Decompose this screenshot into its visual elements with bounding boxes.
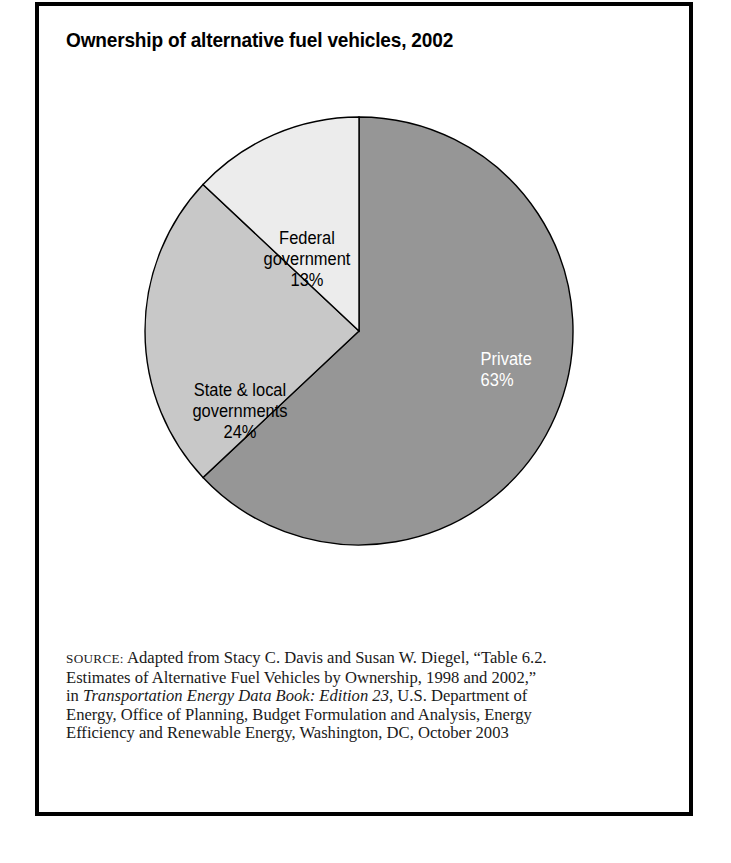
source-line-3-suffix: , U.S. Department of <box>389 686 527 705</box>
slice-label-line1: Federal <box>232 228 382 249</box>
source-line-1: SOURCE: Adapted from Stacy C. Davis and … <box>66 649 666 669</box>
pie-chart-graphic <box>139 111 579 551</box>
slice-label-line1: Private <box>481 349 594 370</box>
source-line-2: Estimates of Alternative Fuel Vehicles b… <box>66 669 666 688</box>
source-line-3: in Transportation Energy Data Book: Edit… <box>66 687 666 706</box>
figure-frame: Ownership of alternative fuel vehicles, … <box>35 2 693 816</box>
slice-label-value: 63% <box>481 370 594 391</box>
slice-label-line2: government <box>232 249 382 270</box>
source-line-1-text: Adapted from Stacy C. Davis and Susan W.… <box>124 648 547 667</box>
pie-slice-group <box>145 117 573 545</box>
slice-label-value: 13% <box>232 270 382 291</box>
slice-label-line1: State & local <box>156 380 323 401</box>
pie-chart: Federal government 13% State & local gov… <box>39 6 689 646</box>
slice-label-line2: governments <box>156 401 323 422</box>
pie-slice-label-federal-government: Federal government 13% <box>232 228 382 291</box>
source-note: SOURCE: Adapted from Stacy C. Davis and … <box>66 649 666 743</box>
source-publication-title: Transportation Energy Data Book: Edition… <box>83 686 389 705</box>
source-line-3-prefix: in <box>66 686 83 705</box>
source-line-4: Energy, Office of Planning, Budget Formu… <box>66 706 666 725</box>
slice-label-value: 24% <box>156 422 323 443</box>
source-line-5: Efficiency and Renewable Energy, Washing… <box>66 724 666 743</box>
pie-slice-label-state-and-local-governments: State & local governments 24% <box>156 380 323 443</box>
pie-slice-label-private: Private 63% <box>481 349 594 391</box>
source-label: SOURCE: <box>66 651 124 666</box>
